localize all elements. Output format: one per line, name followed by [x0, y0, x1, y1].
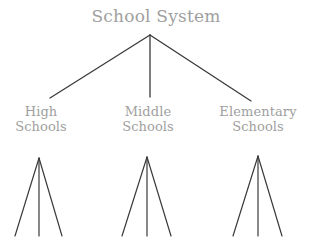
node-elementary-schools: Elementary Schools: [204, 104, 312, 135]
edge-root-to-elementary-schools: [150, 35, 251, 101]
school-system-diagram: School System High Schools Middle School…: [0, 0, 312, 241]
edge-root-to-high-schools: [50, 35, 150, 98]
node-elementary-schools-label-line1: Elementary: [204, 104, 312, 119]
elementary-schools-leaf-edges-group: [233, 156, 282, 236]
high-schools-leaf-edges-group: [15, 158, 62, 236]
edge-elementary-schools-leaf-1: [233, 156, 258, 236]
node-high-schools-label-line2: Schools: [0, 119, 82, 134]
root-node-school-system: School System: [0, 6, 312, 26]
node-middle-schools: Middle Schools: [106, 104, 190, 135]
node-middle-schools-label-line2: Schools: [106, 119, 190, 134]
middle-schools-leaf-edges-group: [122, 157, 171, 236]
node-elementary-schools-label-line2: Schools: [204, 119, 312, 134]
edge-middle-schools-leaf-1: [122, 157, 147, 236]
node-high-schools: High Schools: [0, 104, 82, 135]
root-node-label: School System: [0, 6, 312, 26]
node-middle-schools-label-line1: Middle: [106, 104, 190, 119]
edge-high-schools-leaf-3: [39, 158, 62, 236]
edge-middle-schools-leaf-3: [147, 157, 171, 236]
node-high-schools-label-line1: High: [0, 104, 82, 119]
root-edges-group: [50, 35, 251, 101]
edge-elementary-schools-leaf-3: [258, 156, 282, 236]
edge-high-schools-leaf-1: [15, 158, 39, 236]
